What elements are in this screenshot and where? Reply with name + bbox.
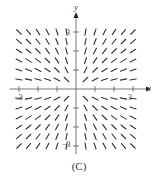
slope-segment: [112, 49, 117, 54]
slope-segment: [112, 134, 116, 139]
slope-segment: [16, 116, 22, 119]
slope-segment: [121, 144, 125, 149]
slope-segment: [26, 30, 30, 35]
y-axis-arrow-icon: [74, 12, 79, 18]
slope-segment: [130, 79, 136, 80]
slope-segment: [54, 97, 60, 100]
slope-segment: [112, 29, 116, 34]
slope-segment: [85, 133, 86, 139]
y-tick-label-3: 3: [66, 28, 70, 37]
slope-segment: [103, 39, 106, 44]
slope-segment: [130, 116, 136, 119]
slope-segment: [45, 115, 50, 120]
slope-segment: [56, 39, 58, 45]
slope-segment: [35, 107, 41, 110]
slope-segment: [25, 98, 31, 99]
x-tick-label-3: 3: [128, 93, 132, 102]
slope-segment: [120, 98, 126, 99]
slope-segment: [130, 49, 135, 53]
slope-segment: [130, 59, 136, 62]
slope-segment: [16, 107, 22, 109]
slope-segment: [85, 143, 86, 149]
slope-segment: [64, 77, 69, 82]
slope-segment: [66, 48, 68, 54]
slope-segment: [103, 124, 107, 129]
slope-segment: [102, 68, 107, 72]
slope-segment: [84, 67, 87, 73]
slope-segment: [85, 48, 87, 54]
slope-segment: [94, 124, 97, 130]
slope-segment: [131, 30, 136, 35]
slope-segment: [66, 38, 67, 44]
slope-segment: [66, 124, 68, 130]
slope-segment: [35, 59, 40, 63]
slope-segment: [16, 79, 22, 80]
slope-segment: [16, 59, 22, 62]
slope-segment: [94, 134, 96, 140]
slope-segment: [111, 69, 117, 72]
slope-segment: [102, 115, 107, 120]
slope-segment: [121, 125, 126, 129]
slope-segment: [83, 96, 88, 101]
slope-segment: [26, 39, 31, 44]
slope-segment: [112, 143, 116, 148]
slope-segment: [46, 39, 49, 44]
slope-segment: [121, 49, 126, 53]
slope-segment: [45, 58, 50, 63]
slope-segment: [83, 77, 88, 82]
slope-segment: [55, 115, 59, 120]
slope-segment: [45, 106, 50, 110]
slope-segment: [65, 105, 68, 111]
slope-segment: [131, 39, 136, 43]
slope-segment: [112, 39, 116, 44]
slope-segment: [84, 57, 86, 63]
slope-segment: [16, 49, 21, 53]
slope-segment: [103, 143, 106, 149]
slope-segment: [93, 58, 97, 63]
y-axis-label: y: [74, 2, 78, 12]
slope-segment: [65, 67, 68, 73]
slope-segment: [26, 107, 32, 109]
slope-field-figure: y x −3 3 3 −3 (C): [0, 0, 158, 180]
slope-segment: [121, 116, 126, 119]
slope-segment: [102, 106, 107, 110]
slope-segment: [121, 30, 125, 35]
slope-segment: [131, 144, 136, 149]
slope-segment: [46, 48, 50, 53]
slope-segment: [45, 68, 50, 72]
slope-segment: [94, 48, 97, 54]
slope-segment: [102, 58, 107, 63]
x-tick-label-neg3: −3: [14, 93, 23, 102]
slope-segment: [36, 125, 41, 130]
slope-segment: [131, 134, 136, 138]
slope-segment: [101, 97, 107, 99]
slope-segment: [94, 39, 96, 45]
slope-segment: [84, 105, 87, 111]
slope-segment: [36, 39, 40, 44]
slope-segment: [56, 134, 58, 140]
x-axis-label: x: [147, 83, 151, 93]
slope-segment: [17, 39, 22, 43]
slope-segment: [56, 143, 58, 149]
slope-segment: [16, 125, 21, 129]
slope-segment: [26, 134, 31, 139]
slope-segment: [65, 57, 67, 63]
slope-segment: [16, 69, 22, 71]
slope-segment: [101, 78, 107, 80]
slope-segment: [46, 124, 50, 129]
slope-segment: [46, 143, 49, 149]
slope-segment: [54, 78, 60, 81]
slope-segment: [130, 107, 136, 109]
y-tick-label-neg3: −3: [62, 140, 71, 149]
slope-segment: [36, 49, 41, 54]
slope-segment: [103, 48, 107, 53]
slope-segment: [121, 69, 127, 71]
slope-segment: [46, 29, 49, 35]
slope-segment: [121, 107, 127, 109]
slope-segment: [111, 79, 117, 81]
slope-segment: [56, 124, 59, 130]
slope-segment: [94, 29, 96, 35]
slope-segment: [56, 48, 59, 54]
slope-segment: [26, 69, 32, 71]
slope-segment: [121, 134, 126, 139]
